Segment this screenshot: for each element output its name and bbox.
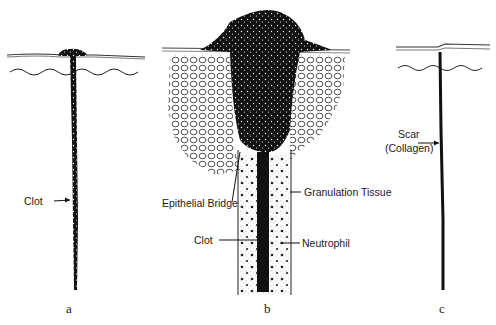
- caption-c: c: [439, 301, 445, 316]
- caption-b: b: [264, 301, 271, 316]
- label-neutrophil: Neutrophil: [302, 237, 350, 249]
- label-collagen: (Collagen): [385, 142, 433, 154]
- label-granulation-tissue: Granulation Tissue: [304, 186, 392, 198]
- caption-a: a: [66, 301, 72, 316]
- epithelium-left: [168, 55, 240, 175]
- label-epithelial-bridge: Epithelial Bridge: [162, 197, 238, 209]
- clot-tract-a: [70, 56, 78, 290]
- panel-b: Epithelial Bridge Granulation Tissue Clo…: [162, 10, 392, 316]
- label-clot-b: Clot: [194, 234, 213, 246]
- wound-healing-diagram: Clot a Epithelial Bridge Granulation Tis…: [0, 0, 496, 325]
- label-clot-a: Clot: [24, 195, 43, 207]
- panel-c: Scar (Collagen) c: [385, 44, 490, 316]
- epithelium-right: [290, 55, 345, 160]
- clot-core-b: [257, 152, 269, 292]
- panel-a: Clot a: [7, 49, 145, 316]
- label-scar: Scar: [398, 128, 420, 140]
